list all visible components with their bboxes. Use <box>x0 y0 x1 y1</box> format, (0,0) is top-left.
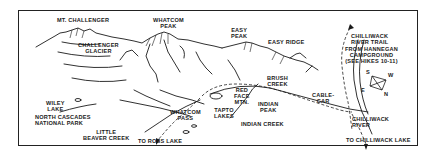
label-easy-ridge: EASY RIDGE <box>268 39 304 45</box>
label-indian-peak: INDIAN PEAK <box>258 101 278 113</box>
compass-s: S <box>366 69 370 75</box>
cable-car-line <box>306 66 312 72</box>
ridge-challenger <box>36 28 222 48</box>
compass-w: W <box>388 72 393 78</box>
map-illustration <box>0 0 437 159</box>
compass-n: N <box>384 91 388 97</box>
arrow-chilliwack-trail <box>348 24 354 30</box>
label-brush-creek: BRUSH CREEK <box>267 75 288 87</box>
label-chilliwack-river: CHILLIWACK RIVER <box>352 116 389 128</box>
label-tapto-lakes: TAPTO LAKES <box>214 107 234 119</box>
tapto-lake <box>210 93 222 99</box>
label-whatcom-peak: WHATCOM PEAK <box>153 17 184 29</box>
label-north-cascades: NORTH CASCADES NATIONAL PARK <box>35 114 91 126</box>
label-to-chilliwack-lake: TO CHILLIWACK LAKE <box>346 137 411 143</box>
arrow-to-chilliwack-lake <box>364 144 368 150</box>
label-from-hannegan: FROM HANNEGAN CAMPGROUND (SEE HIKES 10-1… <box>345 46 398 65</box>
label-easy-peak: EASY PEAK <box>231 27 247 39</box>
label-indian-creek: INDIAN CREEK <box>241 121 284 127</box>
compass-e: E <box>361 87 365 93</box>
compass-icon <box>370 76 386 90</box>
label-whatcom-pass: WHATCOM PASS <box>170 109 201 121</box>
label-mt-challenger: MT. CHALLENGER <box>57 17 109 23</box>
label-red-face-mtn: RED FACE MTN. <box>234 87 250 106</box>
wiley-lake <box>75 99 81 102</box>
label-to-ross-lake: TO ROSS LAKE <box>138 138 182 144</box>
label-challenger-glacier: CHALLENGER GLACIER <box>78 42 119 54</box>
label-chilliwack-river-trail: CHILLIWACK RIVER TRAIL <box>351 33 388 45</box>
label-wiley-lake: WILEY LAKE <box>46 100 65 112</box>
label-little-beaver-creek: LITTLE BEAVER CREEK <box>83 129 129 141</box>
label-cable-car: CABLE- CAR <box>312 92 334 104</box>
